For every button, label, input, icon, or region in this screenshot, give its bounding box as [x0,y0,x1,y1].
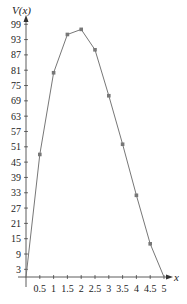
data-point-marker [121,142,125,146]
y-axis: 39152127333945515763697581879399 [11,15,29,287]
data-point-marker [148,242,152,246]
x-tick-label: 4 [134,283,139,294]
y-tick-label: 27 [11,203,21,214]
y-tick-label: 51 [11,141,21,152]
data-point-marker [38,153,42,157]
x-tick-label: 2 [79,283,84,294]
y-tick-label: 9 [16,249,21,260]
y-tick-label: 63 [11,111,21,122]
y-tick-label: 69 [11,95,21,106]
y-tick-label: 45 [11,157,21,168]
data-point-marker [107,94,111,98]
y-tick-label: 87 [11,49,21,60]
x-tick-label: 3.5 [116,283,129,294]
y-tick-label: 15 [11,233,21,244]
y-tick-label: 93 [11,34,21,45]
y-tick-label: 39 [11,172,21,183]
x-tick-label: 3 [106,283,111,294]
x-tick-label: 4.5 [144,283,157,294]
data-point-marker [93,48,97,52]
x-axis-arrow-icon [166,275,173,280]
x-tick-label: 5 [162,283,167,294]
x-axis-title: x [173,271,179,283]
data-point-marker [66,33,70,37]
x-tick-label: 1.5 [61,283,74,294]
x-tick-label: 1 [51,283,56,294]
x-axis: 0.511.522.533.544.55 [18,275,173,295]
y-tick-label: 57 [11,126,21,137]
y-axis-title: V(x) [12,4,31,17]
series-line [26,29,164,277]
plot-area [26,28,164,277]
data-point-marker [135,194,139,198]
data-point-marker [52,71,56,75]
y-tick-label: 33 [11,187,21,198]
y-tick-label: 99 [11,19,21,30]
y-tick-label: 3 [16,264,21,275]
data-point-marker [79,28,83,32]
y-axis-arrow-icon [24,15,29,22]
y-tick-label: 75 [11,80,21,91]
y-tick-label: 21 [11,218,21,229]
line-chart: 39152127333945515763697581879399 0.511.5… [0,0,187,304]
x-tick-label: 0.5 [34,283,47,294]
y-tick-label: 81 [11,65,21,76]
x-tick-label: 2.5 [89,283,102,294]
